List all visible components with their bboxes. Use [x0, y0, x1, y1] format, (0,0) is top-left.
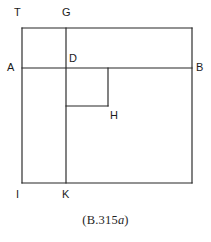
vertex-label-A: A — [7, 62, 15, 73]
vertex-label-D: D — [69, 53, 77, 64]
geometry-diagram — [0, 0, 211, 242]
vertex-label-T: T — [14, 7, 21, 18]
vertex-label-B: B — [196, 62, 204, 73]
vertex-label-H: H — [110, 110, 118, 121]
figure-caption: (B.315a) — [0, 213, 211, 228]
vertex-label-I: I — [16, 189, 19, 200]
caption-suffix: ) — [124, 213, 128, 227]
vertex-label-G: G — [62, 7, 71, 18]
geometry-figure: T G D A B H I K (B.315a) — [0, 0, 211, 242]
vertex-label-K: K — [62, 189, 70, 200]
caption-prefix: (B.315 — [82, 213, 118, 227]
